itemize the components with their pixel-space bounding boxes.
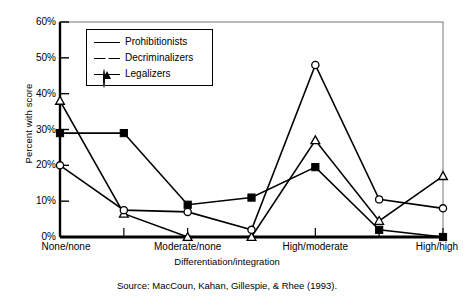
source-caption: Source: MacCoun, Kahan, Gillespie, & Rhe… [0,280,454,291]
legend-item-decriminalizers: Decriminalizers [87,50,212,66]
legend-label: Decriminalizers [125,53,193,63]
filled-square-marker-icon [94,36,120,48]
y-axis-tick-label: 20% [22,160,56,170]
x-axis-tick-labels: None/noneModerate/noneHigh/moderateHigh/… [0,241,454,257]
y-axis-tick-label: 10% [22,196,56,206]
legend-label: Prohibitionists [125,37,187,47]
x-axis-tick-label: High/high [382,241,463,253]
open-circle-marker-icon [94,68,120,80]
x-axis-label: Differentiation/integration [0,256,454,267]
legend-item-prohibitionists: Prohibitionists [87,34,212,50]
x-axis-tick-label: Moderate/none [133,241,243,253]
chart-legend: Prohibitionists Decriminalizers Legalize… [86,29,213,86]
x-axis-tick-label: None/none [11,241,121,253]
y-axis-tick-label: 60% [22,17,56,27]
open-triangle-marker-icon [94,52,120,64]
y-axis-tick-label: 40% [22,89,56,99]
legend-item-legalizers: Legalizers [87,66,212,82]
x-axis-tick-label: High/moderate [260,241,370,253]
legend-label: Legalizers [125,69,171,79]
y-axis-tick-label: 30% [22,125,56,135]
y-axis-tick-label: 50% [22,53,56,63]
